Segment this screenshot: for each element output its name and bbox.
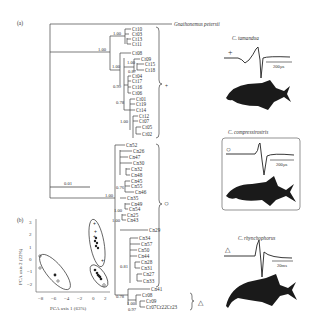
svg-text:○: ○ [226,145,231,154]
svg-text:0.99: 0.99 [113,84,122,89]
svg-text:△: △ [225,246,231,254]
svg-text:0.97: 0.97 [128,307,137,312]
svg-text:0.78: 0.78 [116,100,125,105]
svg-text:3: 3 [29,220,32,225]
svg-text:Ct05: Ct05 [142,124,152,130]
svg-text:1.00: 1.00 [113,31,122,36]
svg-text:0: 0 [29,257,32,262]
panel-b-label: (b) [17,217,24,224]
svg-text:+: + [228,48,233,57]
outgroup-label: Gnathonemus petersii [174,21,220,27]
clade-circle-symbol: ○ [164,199,169,208]
svg-text:+: + [93,220,96,226]
svg-text:1.00: 1.00 [112,64,121,69]
svg-text:1.00: 1.00 [127,60,136,65]
svg-text:Cn33: Cn33 [143,278,155,284]
svg-text:−2: −2 [77,296,83,301]
svg-text:−1: −1 [27,269,33,274]
svg-text:Ct18: Ct18 [145,67,155,73]
scale-bar-label: 0.01 [64,181,73,186]
svg-text:Ct02: Ct02 [142,131,152,137]
svg-text:−6: −6 [51,296,57,301]
svg-text:−4: −4 [64,296,70,301]
svg-text:+: + [101,257,104,263]
svg-text:Cr07Cr22Cr23: Cr07Cr22Cr23 [146,304,178,310]
svg-text:Ct11: Ct11 [132,41,142,47]
svg-text:1.00: 1.00 [114,208,123,213]
phylogeny-figure: (a) Gnathonemus petersii 1.00 1.00 Ct10 … [0,0,317,318]
svg-text:2: 2 [29,232,32,237]
svg-text:2: 2 [104,296,107,301]
svg-text:0.76: 0.76 [116,185,125,190]
clade-plus-symbol: + [165,83,168,89]
svg-text:1.00: 1.00 [127,301,136,306]
svg-text:−2: −2 [27,282,33,287]
svg-text:−8: −8 [38,296,44,301]
species-name-rhynchophorus: C. rhynchophorus [238,235,275,241]
svg-text:1.00: 1.00 [120,119,129,124]
svg-text:Cn43: Cn43 [127,217,139,223]
clade-triangle-symbol: △ [198,299,204,307]
svg-text:Cn27: Cn27 [143,271,155,277]
svg-text:200µs: 200µs [273,64,285,69]
species-name-tamandua: C. tamandua [232,35,259,41]
svg-text:1.00: 1.00 [98,47,107,52]
pca-xlabel: PCA axis 1 (63%) [50,306,87,311]
svg-text:1: 1 [29,245,32,250]
svg-text:1.00: 1.00 [105,193,114,198]
svg-text:0.81: 0.81 [120,264,129,269]
pca-ylabel: PCA axis 2 (22%) [18,248,23,285]
svg-text:20ms: 20ms [277,263,287,268]
panel-a-label: (a) [17,20,23,27]
svg-text:1.00: 1.00 [112,218,121,223]
svg-text:0.78: 0.78 [116,294,125,299]
svg-text:200µs: 200µs [276,162,288,167]
species-name-compressirostris: C. compressirostris [228,129,268,135]
svg-text:0: 0 [92,296,95,301]
